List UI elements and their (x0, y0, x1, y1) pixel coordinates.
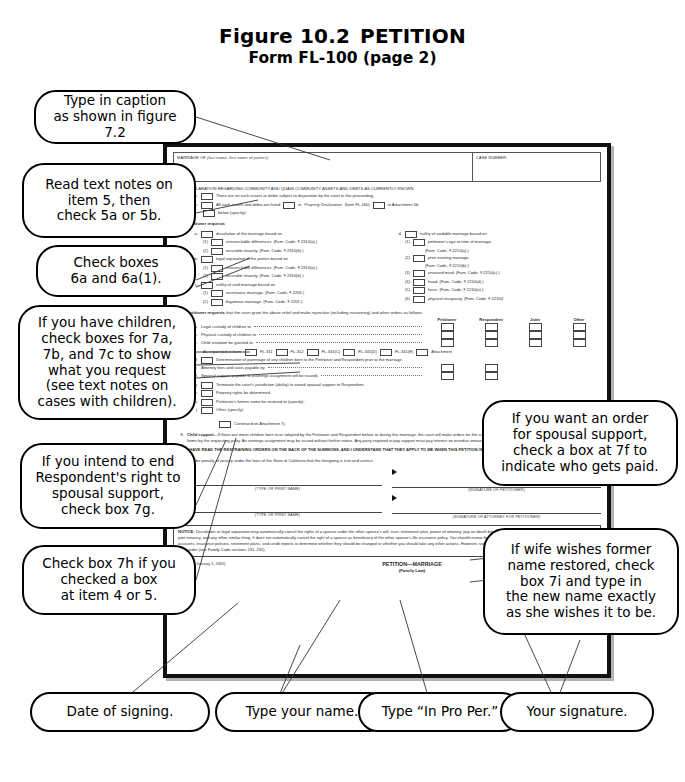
form-fl-312-label: FL-312 (291, 349, 304, 355)
item-7-heading-bold: Petitioner requests (187, 310, 225, 315)
form-attachment-label: Attachment (431, 349, 452, 355)
checkbox-6c[interactable] (201, 282, 213, 289)
item-7f-text: Spousal support payable to (earnings ass… (201, 373, 318, 379)
item-7e-dots (268, 367, 422, 368)
item-6b1-text: irreconcilable differences. (Fam. Code, … (226, 265, 317, 271)
checkbox-7g[interactable] (201, 382, 213, 389)
callout-item5: Read text notes onitem 5, thencheck 5a o… (22, 163, 196, 238)
item-5a-text: There are no such assets or debts subjec… (216, 193, 374, 199)
checkbox-5a[interactable] (201, 193, 213, 200)
figure-title-text: PETITION (360, 24, 466, 48)
checkbox-form-fl-341c[interactable] (307, 349, 319, 356)
item-7c-row: c. Child visitation be granted to (173, 339, 601, 347)
checkbox-5b-attachment[interactable] (373, 202, 385, 209)
checkbox-6d[interactable] (405, 231, 417, 238)
item-6d1-number: (1) (405, 239, 410, 245)
checkbox-6b1[interactable] (211, 265, 223, 272)
item-6b2-text: incurable insanity. (Fam. Code, § 2310(b… (226, 273, 304, 279)
checkbox-7a-petitioner[interactable] (441, 323, 454, 331)
callout-property-rights-text: Check box 7h if youchecked a boxat item … (42, 556, 176, 604)
checkbox-7b-respondent[interactable] (485, 331, 498, 339)
item-6a1-text: irreconcilable differences. (Fam. Code, … (226, 239, 317, 245)
checkbox-6c1[interactable] (211, 290, 223, 297)
checkbox-6b[interactable] (201, 256, 213, 263)
checkbox-7j[interactable] (201, 407, 213, 414)
item-6c2-number: (2) (203, 299, 208, 305)
checkbox-form-fl-312[interactable] (276, 349, 288, 356)
item-7h-row: h. Property rights be determined. (173, 390, 601, 397)
checkbox-7b-joint[interactable] (529, 331, 542, 339)
checkbox-6c2[interactable] (211, 299, 223, 306)
as-requested-label: As requested in form: (203, 349, 242, 355)
item-6-left-column: a. dissolution of the marriage based on … (173, 229, 383, 306)
checkbox-7c-joint[interactable] (529, 339, 542, 347)
checkbox-5b-below[interactable] (203, 210, 215, 217)
item-6: 6. Petitioner requests a. dissolution of… (173, 221, 601, 305)
item-6a-text: dissolution of the marriage based on (216, 231, 282, 237)
checkbox-7d[interactable] (201, 357, 213, 364)
item-6d5-text: force. (Fam. Code, § 2210(e).) (428, 287, 483, 293)
checkbox-6d4[interactable] (413, 279, 425, 286)
callout-your-signature: Your signature. (500, 692, 654, 732)
checkbox-7e-respondent[interactable] (485, 364, 498, 372)
checkbox-7c-respondent[interactable] (485, 339, 498, 347)
checkbox-7a-joint[interactable] (529, 323, 542, 331)
checkbox-7a-respondent[interactable] (485, 323, 498, 331)
checkbox-7b-other[interactable] (573, 331, 586, 339)
checkbox-7c-petitioner[interactable] (441, 339, 454, 347)
case-number-field[interactable]: CASE NUMBER: (473, 152, 601, 182)
checkbox-5b[interactable] (201, 202, 213, 209)
checkbox-7f-respondent[interactable] (485, 372, 498, 380)
item-7d-text: Determination of parentage of any childr… (216, 357, 403, 363)
callout-item6-text: Check boxes6a and 6a(1). (70, 255, 161, 287)
checkbox-form-fl-311[interactable] (245, 349, 257, 356)
callout-terminate-support-text: If you intend to endRespondent's right t… (36, 454, 181, 518)
callout-date-signing: Date of signing. (30, 692, 210, 732)
checkbox-6d5[interactable] (413, 287, 425, 294)
item-6a2-number: (2) (203, 248, 208, 254)
callout-item5-text: Read text notes onitem 5, thencheck 5a o… (45, 177, 173, 225)
checkbox-6a1[interactable] (211, 239, 223, 246)
checkbox-form-attachment[interactable] (416, 349, 428, 356)
checkbox-6d3[interactable] (413, 270, 425, 277)
checkbox-7c-other[interactable] (573, 339, 586, 347)
item-5b-below: below (specify): (218, 210, 246, 216)
form-fl-341c-label: FL-341(C) (322, 349, 341, 355)
checkbox-7f-petitioner[interactable] (441, 372, 454, 380)
checkbox-form-fl-341e[interactable] (380, 349, 392, 356)
item-7a-dots (254, 326, 422, 327)
marriage-of-field[interactable]: MARRIAGE OF (last name, first name of pa… (173, 152, 473, 182)
checkbox-6d2[interactable] (413, 255, 425, 262)
checkbox-7e-petitioner[interactable] (441, 364, 454, 372)
checkbox-6d1[interactable] (413, 239, 425, 246)
item-6c1-number: (1) (203, 290, 208, 296)
figure-number: Figure 10.2 (219, 24, 350, 48)
checkbox-6b2[interactable] (211, 273, 223, 280)
item-6d6-text: physical incapacity. (Fam. Code, § 2210(… (428, 296, 503, 302)
item-7-continued-text: Continued on Attachment 7j. (234, 421, 285, 427)
checkbox-7a-other[interactable] (573, 323, 586, 331)
checkbox-6d6[interactable] (413, 296, 425, 303)
item-7-heading-rest: that the court grant the above relief an… (226, 310, 423, 315)
checkbox-6a2[interactable] (211, 248, 223, 255)
callout-type-name-text: Type your name. (246, 704, 359, 720)
checkbox-form-fl-341d[interactable] (343, 349, 355, 356)
item-7b-dots (259, 334, 422, 335)
item-8-number: 8. (173, 432, 184, 438)
item-8-heading: Child support (187, 432, 214, 437)
checkbox-7h[interactable] (201, 390, 213, 397)
item-7j-text: Other (specify): (216, 407, 244, 413)
item-7g-row: g. Terminate the court's jurisdiction (a… (173, 382, 601, 389)
item-6b-text: legal separation of the parties based on (216, 256, 288, 262)
item-7f-row: f. Spousal support payable to (earnings … (173, 372, 601, 380)
signature-caption-petitioner: (SIGNATURE OF PETITIONER) (392, 488, 601, 493)
checkbox-continued-attachment-7j[interactable] (219, 421, 231, 428)
checkbox-5b-property-declaration[interactable] (283, 202, 295, 209)
checkbox-7i[interactable] (201, 399, 213, 406)
date-input-attorney[interactable] (173, 501, 382, 513)
checkbox-7b-petitioner[interactable] (441, 331, 454, 339)
signature-input-attorney[interactable] (392, 502, 601, 514)
case-number-label: CASE NUMBER: (476, 155, 507, 160)
checkbox-6a[interactable] (201, 231, 213, 238)
date-input-petitioner[interactable] (173, 474, 382, 486)
